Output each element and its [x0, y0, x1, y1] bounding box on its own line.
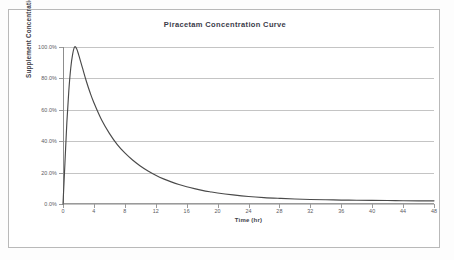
- concentration-curve-line: [63, 47, 434, 204]
- y-axis-tick-label: 20.0%: [41, 170, 57, 176]
- x-axis-tick-label: 20: [214, 208, 220, 214]
- x-axis-tick-label: 40: [369, 208, 375, 214]
- x-axis-tick-label: 36: [338, 208, 344, 214]
- concentration-curve-svg: [63, 47, 434, 204]
- chart-frame: Piracetam Concentration Curve Supplement…: [8, 9, 440, 248]
- x-axis-tick-label: 0: [61, 208, 64, 214]
- y-axis-tick-label: 80.0%: [41, 75, 57, 81]
- x-axis-tick-label: 24: [245, 208, 251, 214]
- x-axis-tick-label: 8: [123, 208, 126, 214]
- y-axis-title: Supplement Concentration: [25, 0, 32, 78]
- scanned-page-background: Piracetam Concentration Curve Supplement…: [0, 0, 454, 260]
- x-axis-tick-label: 16: [184, 208, 190, 214]
- x-axis-title: Time (hr): [63, 217, 434, 223]
- x-axis-tick-label: 44: [400, 208, 406, 214]
- y-axis-tick-label: 0.0%: [44, 201, 57, 207]
- x-axis-tick-label: 48: [431, 208, 437, 214]
- y-axis-tick-label: 40.0%: [41, 138, 57, 144]
- x-axis-tick-label: 32: [307, 208, 313, 214]
- plot-area: 0.0%20.0%40.0%60.0%80.0%100.0% 048121620…: [63, 47, 434, 204]
- chart-title: Piracetam Concentration Curve: [9, 20, 441, 29]
- y-axis-tick-label: 60.0%: [41, 107, 57, 113]
- x-axis-tick-label: 28: [276, 208, 282, 214]
- x-axis-tick-label: 12: [153, 208, 159, 214]
- x-axis-tick-label: 4: [92, 208, 95, 214]
- y-axis-tick-label: 100.0%: [38, 44, 57, 50]
